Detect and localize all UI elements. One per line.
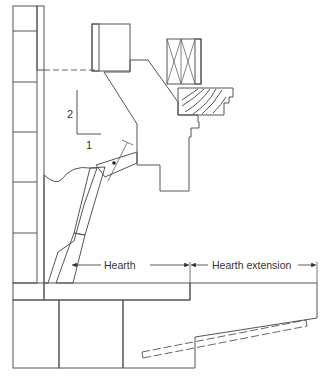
lintel-block (92, 24, 130, 71)
stud-wall (167, 39, 201, 84)
hearth-slab (44, 283, 190, 300)
firebox-back-lower (56, 233, 85, 283)
brick-chimney-wall (13, 6, 37, 283)
damper (96, 140, 137, 181)
reinforcement-bar (142, 320, 307, 358)
foundation (13, 283, 123, 368)
flue-liner (37, 6, 44, 283)
slope-run-label: 1 (86, 139, 92, 151)
smoke-shelf-fill (44, 167, 97, 283)
hearth-label: Hearth (104, 259, 136, 271)
hearth-extension-slab (123, 283, 317, 368)
fireplace-section-diagram: 2 1 Hearth Hearth exte (0, 0, 323, 386)
hearth-extension-dimension: Hearth extension (191, 259, 317, 283)
hearth-extension-label: Hearth extension (212, 259, 292, 271)
slope-indicator: 2 1 (67, 90, 101, 151)
slope-rise-label: 2 (67, 108, 73, 120)
wood-mantel (178, 88, 233, 115)
hearth-dimension: Hearth (72, 259, 190, 283)
